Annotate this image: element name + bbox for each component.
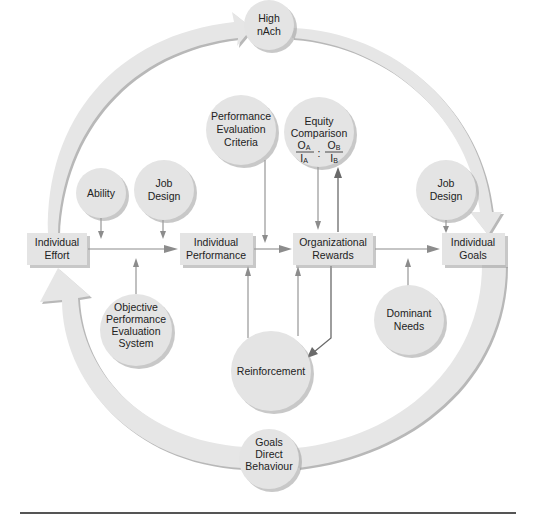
svg-text:Goals: Goals: [255, 436, 282, 448]
svg-text:Organizational: Organizational: [299, 236, 367, 248]
svg-text:Effort: Effort: [45, 249, 70, 261]
circle-reinforcement: Reinforcement: [231, 331, 314, 414]
box-individual-effort: Individual Effort: [27, 233, 90, 268]
svg-text:Reinforcement: Reinforcement: [237, 365, 305, 377]
box-organizational-rewards: Organizational Rewards: [293, 233, 376, 268]
svg-text:Design: Design: [148, 190, 181, 202]
svg-text:Design: Design: [430, 190, 463, 202]
svg-text:High: High: [258, 12, 280, 24]
svg-text:Behaviour: Behaviour: [245, 460, 293, 472]
svg-text:Comparison: Comparison: [291, 127, 348, 139]
circle-equity-comparison: Equity Comparison OA IA : OB IB: [284, 97, 357, 170]
box-individual-goals: Individual Goals: [442, 233, 508, 268]
svg-text:System: System: [118, 337, 153, 349]
svg-text:Performance: Performance: [106, 313, 166, 325]
circle-dominant-needs: Dominant Needs: [374, 285, 447, 358]
svg-text:Individual: Individual: [194, 236, 238, 248]
svg-text:Job: Job: [156, 177, 173, 189]
svg-text:Performance: Performance: [211, 110, 271, 122]
svg-text:Evaluation: Evaluation: [111, 325, 160, 337]
arrowhead-icon: [279, 245, 292, 253]
circle-ability: Ability: [76, 168, 129, 221]
svg-text:Criteria: Criteria: [224, 136, 258, 148]
svg-text:Evaluation: Evaluation: [216, 123, 265, 135]
box-individual-performance: Individual Performance: [180, 233, 256, 268]
svg-text::: :: [318, 147, 321, 159]
svg-text:Job: Job: [438, 177, 455, 189]
svg-text:Direct: Direct: [255, 448, 283, 460]
motivation-diagram: High nAch Performance Evaluation Criteri…: [0, 0, 537, 521]
svg-text:Dominant: Dominant: [387, 307, 432, 319]
svg-text:Ability: Ability: [87, 187, 116, 199]
circle-high-nach: High nAch: [244, 0, 297, 53]
arrowhead-icon: [427, 245, 440, 253]
svg-text:Objective: Objective: [114, 301, 158, 313]
circle-job-design-left: Job Design: [134, 160, 197, 223]
svg-text:Individual: Individual: [35, 236, 79, 248]
svg-text:Needs: Needs: [394, 320, 424, 332]
svg-text:Rewards: Rewards: [312, 249, 353, 261]
svg-text:Individual: Individual: [451, 236, 495, 248]
svg-text:nAch: nAch: [257, 25, 281, 37]
svg-text:Performance: Performance: [186, 249, 246, 261]
circle-job-design-right: Job Design: [416, 160, 479, 223]
svg-text:Equity: Equity: [304, 115, 334, 127]
circle-objective-performance-evaluation-system: Objective Performance Evaluation System: [100, 294, 175, 369]
arrowhead-icon: [164, 245, 178, 253]
circle-performance-evaluation-criteria: Performance Evaluation Criteria: [206, 95, 279, 168]
circle-goals-direct-behaviour: Goals Direct Behaviour: [239, 429, 302, 492]
svg-text:Goals: Goals: [459, 249, 486, 261]
